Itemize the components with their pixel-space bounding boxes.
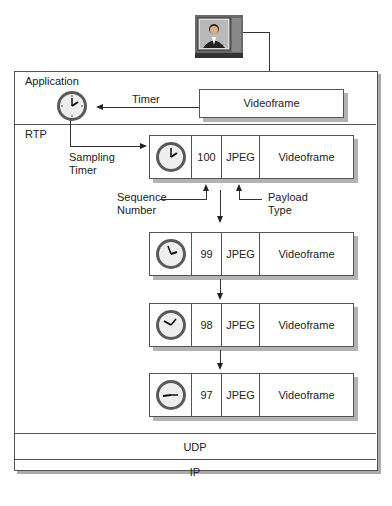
connector — [206, 190, 207, 199]
sequence-number-cell: 99 — [192, 233, 222, 275]
videoframe-cell: Videoframe — [260, 233, 353, 275]
clock-icon — [155, 379, 187, 411]
layer-label-udp: UDP — [14, 436, 376, 458]
clock-icon — [155, 238, 187, 270]
rtp-packet: 98 JPEG Videoframe — [149, 303, 354, 347]
videoframe-label: Videoframe — [243, 97, 299, 109]
arrow-down-icon — [217, 293, 223, 300]
clock-icon — [155, 309, 187, 341]
connector — [70, 146, 140, 147]
layer-divider — [14, 433, 376, 434]
arrow-down-icon — [217, 363, 223, 370]
clock-icon — [155, 141, 187, 173]
sequence-number-cell: 97 — [192, 374, 222, 416]
connector — [220, 190, 221, 216]
sequence-number-cell: 98 — [192, 304, 222, 346]
connector — [102, 107, 200, 108]
connector — [269, 32, 270, 76]
timer-label: Timer — [132, 93, 160, 105]
connector — [239, 199, 262, 200]
tv-monitor-icon — [195, 15, 243, 59]
timestamp-cell — [150, 304, 192, 346]
videoframe-cell: Videoframe — [260, 304, 353, 346]
rtp-packet: 97 JPEG Videoframe — [149, 373, 354, 417]
payload-type-cell: JPEG — [222, 304, 260, 346]
connector — [239, 190, 240, 199]
timestamp-cell — [150, 233, 192, 275]
videoframe-cell: Videoframe — [260, 374, 353, 416]
payload-type-cell: JPEG — [222, 374, 260, 416]
layer-divider — [14, 124, 376, 125]
connector — [220, 279, 221, 294]
arrow-down-icon — [217, 216, 223, 223]
layer-label-application: Application — [25, 75, 79, 87]
layer-label-ip: IP — [14, 460, 376, 484]
connector — [70, 120, 71, 146]
connector — [160, 199, 207, 200]
sequence-number-label: Sequence Number — [117, 191, 167, 217]
arrow-right-icon — [140, 143, 147, 149]
rtp-packet: 100 JPEG Videoframe — [149, 135, 354, 179]
videoframe-cell: Videoframe — [260, 136, 353, 178]
application-videoframe: Videoframe — [199, 89, 344, 118]
timestamp-cell — [150, 374, 192, 416]
payload-type-cell: JPEG — [222, 233, 260, 275]
connector — [243, 32, 270, 33]
rtp-packet: 99 JPEG Videoframe — [149, 232, 354, 276]
layer-label-rtp: RTP — [25, 128, 47, 140]
timestamp-cell — [150, 136, 192, 178]
connector — [220, 350, 221, 364]
sequence-number-cell: 100 — [192, 136, 222, 178]
sampling-timer-label: Sampling Timer — [69, 151, 115, 177]
payload-type-cell: JPEG — [222, 136, 260, 178]
payload-type-label: Payload Type — [268, 191, 308, 217]
clock-icon — [56, 90, 88, 122]
